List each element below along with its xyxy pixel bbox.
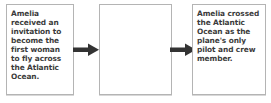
arrow-right-icon-1	[73, 42, 99, 58]
flow-step-3-text: Amelia crossed the Atlantic Ocean as the…	[197, 9, 262, 63]
flow-step-box-3[interactable]: Amelia crossed the Atlantic Ocean as the…	[192, 4, 266, 95]
flow-step-box-1[interactable]: Amelia received an invitation to become …	[6, 4, 74, 95]
flow-step-box-2[interactable]	[99, 4, 172, 95]
flow-chart-diagram: Amelia received an invitation to become …	[0, 0, 271, 103]
flow-step-1-text: Amelia received an invitation to become …	[11, 9, 70, 81]
